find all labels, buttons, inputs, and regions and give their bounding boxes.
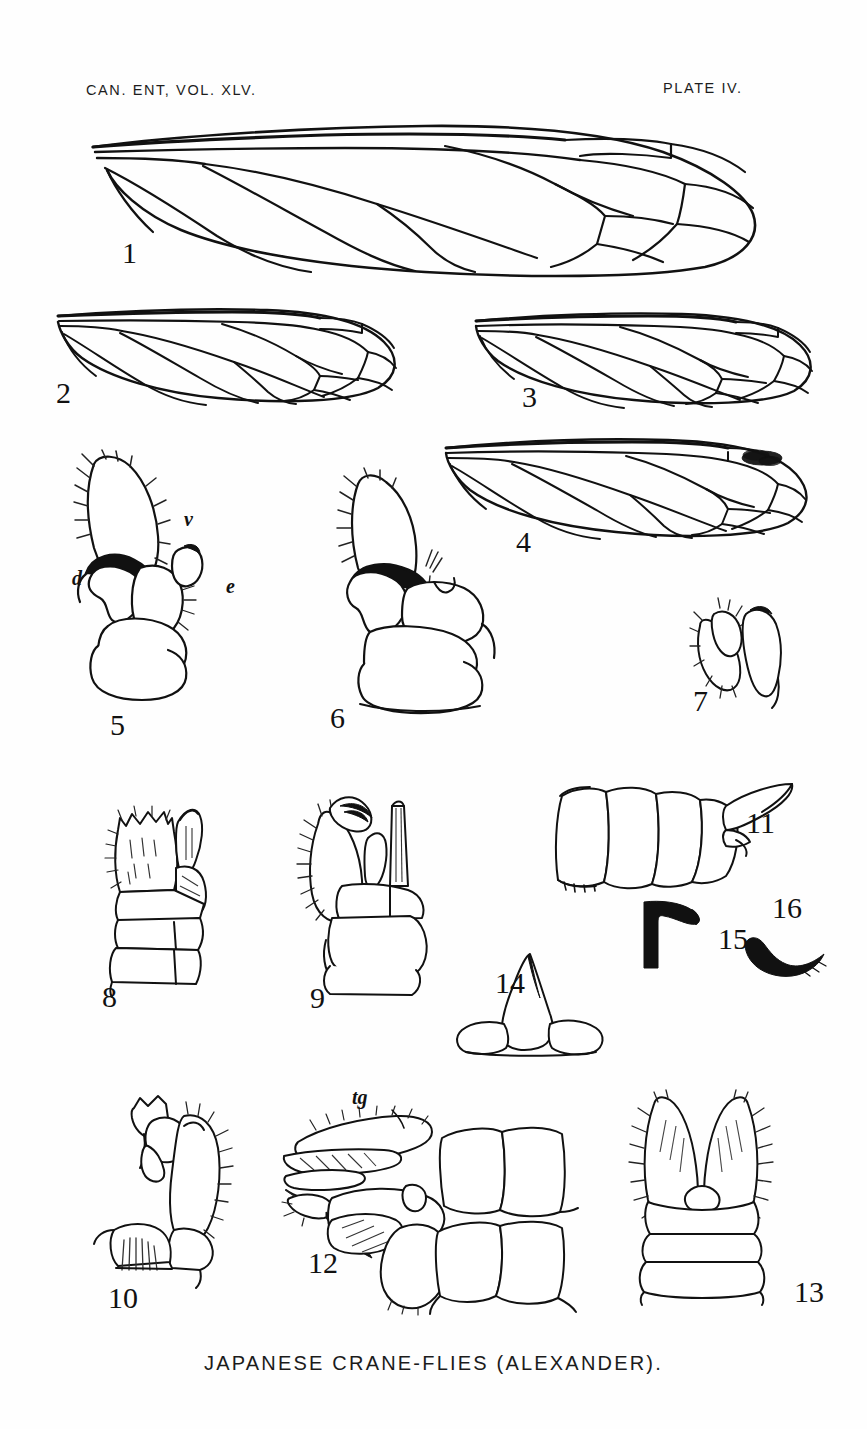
figure-14-artwork xyxy=(452,952,612,1057)
header-left: CAN. ENT, VOL. XLV. xyxy=(86,82,257,98)
figure-7-number: 7 xyxy=(693,686,708,716)
figure-4-stigma xyxy=(742,450,782,466)
header-left-text: CAN. ENT, VOL. XLV. xyxy=(86,82,257,98)
header-right-text: PLATE IV. xyxy=(663,80,743,96)
figure-13-number: 13 xyxy=(794,1277,824,1307)
figure-10-artwork xyxy=(88,1090,263,1290)
figure-8-number: 8 xyxy=(102,982,117,1012)
figure-3-number: 3 xyxy=(522,382,537,412)
figure-10-number: 10 xyxy=(108,1283,138,1313)
annotation-tg: tg xyxy=(352,1086,368,1109)
figure-2-artwork xyxy=(52,300,402,410)
annotation-e: e xyxy=(226,575,235,598)
plate-caption-text: JAPANESE CRANE-FLIES (ALEXANDER). xyxy=(204,1352,663,1374)
figure-11-number: 11 xyxy=(746,808,775,838)
figure-6-number: 6 xyxy=(330,703,345,733)
figure-1-number: 1 xyxy=(122,238,137,268)
annotation-d: d xyxy=(72,567,82,590)
figure-15-artwork xyxy=(638,898,714,970)
plate-page: CAN. ENT, VOL. XLV. PLATE IV. xyxy=(0,0,867,1429)
figure-16-artwork xyxy=(740,930,830,980)
annotation-v: v xyxy=(184,508,193,531)
figure-13-artwork xyxy=(620,1090,800,1305)
figure-6-artwork xyxy=(330,468,530,723)
header-right: PLATE IV. xyxy=(663,80,743,96)
figure-14-number: 14 xyxy=(495,968,525,998)
plate-caption: JAPANESE CRANE-FLIES (ALEXANDER). xyxy=(0,1352,867,1375)
figure-12-artwork xyxy=(280,1100,580,1315)
figure-8-artwork xyxy=(100,798,230,998)
figure-12-number: 12 xyxy=(308,1248,338,1278)
figure-5-number: 5 xyxy=(110,710,125,740)
figure-9-number: 9 xyxy=(310,983,325,1013)
figure-16-number: 16 xyxy=(772,893,802,923)
figure-9-artwork xyxy=(292,790,432,1000)
figure-1-artwork xyxy=(85,112,785,282)
figure-2-number: 2 xyxy=(56,378,71,408)
